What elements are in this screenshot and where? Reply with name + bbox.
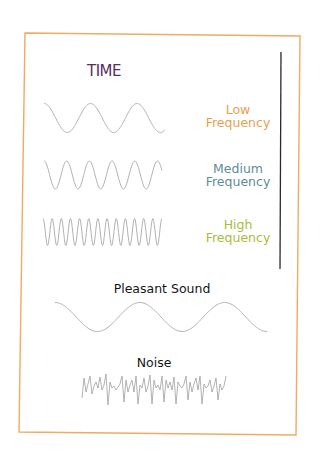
medium-frequency-line2: Frequency xyxy=(198,175,278,188)
low-frequency-line2: Frequency xyxy=(198,116,278,129)
low-frequency-wave xyxy=(44,104,165,133)
time-title: TIME xyxy=(78,64,130,80)
high-frequency-line2: Frequency xyxy=(198,231,278,244)
high-frequency-label: High Frequency xyxy=(198,218,278,244)
low-frequency-label: Low Frequency xyxy=(198,103,278,129)
noise-wave xyxy=(82,374,226,405)
medium-frequency-label: Medium Frequency xyxy=(198,162,278,188)
pleasant-sound-wave xyxy=(55,303,267,332)
medium-frequency-wave xyxy=(44,161,162,189)
high-frequency-wave xyxy=(43,219,162,246)
pleasant-sound-label: Pleasant Sound xyxy=(100,282,224,295)
noise-label: Noise xyxy=(130,356,178,369)
divider-line xyxy=(280,52,281,269)
